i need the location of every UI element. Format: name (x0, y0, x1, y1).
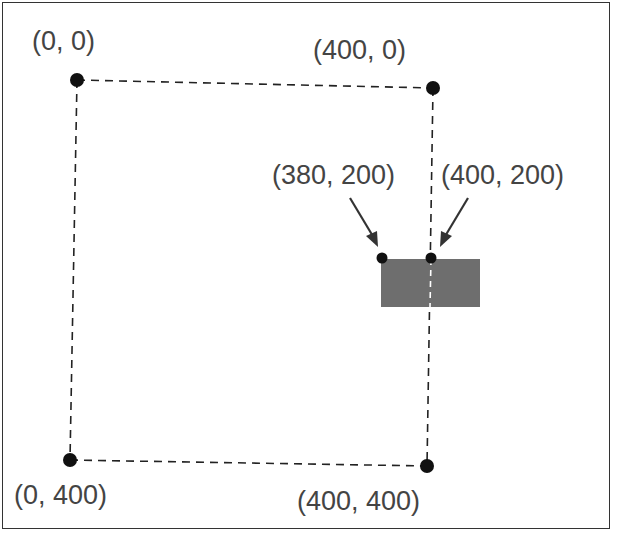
point-400-200 (426, 253, 437, 264)
label-0-400: (0, 400) (14, 482, 107, 509)
point-400-0 (426, 81, 440, 95)
point-380-200 (377, 253, 388, 264)
label-0-0: (0, 0) (32, 28, 95, 55)
label-380-200: (380, 200) (272, 162, 395, 189)
point-0-400 (63, 453, 77, 467)
label-400-200: (400, 200) (441, 162, 564, 189)
label-400-400: (400, 400) (297, 488, 420, 515)
point-400-400 (420, 459, 434, 473)
arrows (350, 198, 468, 247)
point-0-0 (70, 73, 84, 87)
dashed-square (70, 80, 433, 466)
label-400-0: (400, 0) (313, 37, 406, 64)
coordinate-diagram (0, 0, 618, 547)
